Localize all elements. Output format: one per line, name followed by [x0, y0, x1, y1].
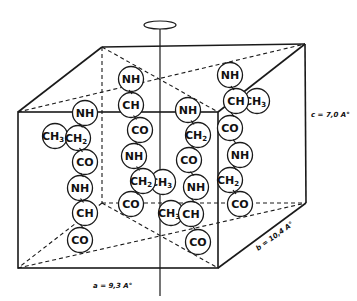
group-label: CO [221, 122, 238, 135]
chemical-group: CH2 [130, 169, 156, 194]
peptide-chain: CH3NHCH2CONHCHCO [42, 101, 98, 253]
chemical-group: NH [218, 63, 243, 88]
group-label: NH [71, 182, 89, 195]
group-label: CH [76, 207, 93, 220]
group-label: NH [122, 73, 140, 86]
group-label: CH [227, 95, 244, 108]
group-label: NH [221, 69, 239, 82]
chemical-group: CH [119, 93, 144, 118]
group-label: CO [180, 154, 197, 167]
chemical-group: NH [73, 101, 98, 126]
chemical-group: CH [224, 89, 249, 114]
group-label: NH [187, 181, 205, 194]
chemical-group: CO [228, 192, 253, 217]
group-label: CO [122, 198, 139, 211]
chemical-group: NH [122, 144, 147, 169]
group-label: NH [231, 149, 249, 162]
dimension-a-label: a = 9,3 A° [93, 282, 132, 290]
chemical-group: CO [177, 148, 202, 173]
group-label: CO [76, 156, 93, 169]
group-label: CH [122, 99, 139, 112]
chemical-group: CO [218, 116, 243, 141]
chemical-group: NH [176, 98, 201, 123]
group-label: CO [131, 124, 148, 137]
chemical-group: CH2 [65, 126, 91, 151]
group-label: NH [125, 150, 143, 163]
chemical-group: CO [186, 230, 211, 255]
chemical-group: NH [68, 176, 93, 201]
group-label: NH [76, 107, 94, 120]
chemical-group: CH [73, 201, 98, 226]
group-label: CO [189, 236, 206, 249]
chemical-group: CO [128, 118, 153, 143]
group-label: NH [179, 104, 197, 117]
chemical-group: NH [184, 175, 209, 200]
axis-ellipse-icon [144, 21, 176, 29]
chemical-group: CH2 [217, 168, 243, 193]
chemical-group: CH [179, 202, 204, 227]
group-label: CH [182, 208, 199, 221]
group-label: CO [71, 234, 88, 247]
dimension-c-label: c = 7,0 A° [311, 111, 350, 119]
chemical-group: NH [119, 67, 144, 92]
chemical-group: CO [73, 150, 98, 175]
chemical-group: CH3 [42, 124, 68, 149]
group-label: CO [231, 198, 248, 211]
peptide-chain: CH3NHCHCONHCH2CO [217, 63, 270, 217]
chemical-group: CO [119, 192, 144, 217]
unit-cell-diagram: CH3NHCH2CONHCHCOCH3NHCHCONHCH2COCH3NHCH2… [0, 0, 357, 301]
chemical-group: CH2 [185, 123, 211, 148]
chemical-group: CO [68, 228, 93, 253]
chemical-group: NH [228, 143, 253, 168]
rotation-axis [144, 21, 176, 296]
peptide-chains: CH3NHCH2CONHCHCOCH3NHCHCONHCH2COCH3NHCH2… [42, 63, 270, 255]
peptide-chain: CH3NHCHCONHCH2CO [119, 67, 176, 217]
